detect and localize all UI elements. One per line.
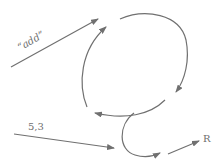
eval-loop-diagram: “add” 5,3 R: [0, 0, 219, 164]
inner-return-arc: [95, 100, 165, 116]
loop-left-arc: [82, 27, 106, 107]
label-add: “add”: [16, 29, 47, 53]
loop-top-arc: [120, 14, 187, 92]
result-output-arrow: [168, 141, 199, 154]
hook-curve: [122, 113, 160, 157]
args-input-arrow: [14, 134, 114, 148]
label-R: R: [203, 133, 211, 144]
label-5-3: 5,3: [28, 121, 44, 132]
